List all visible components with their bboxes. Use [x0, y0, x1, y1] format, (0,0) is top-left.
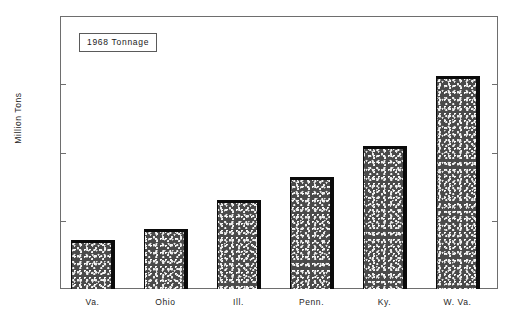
bars-layer: Va.OhioIll.Penn.Ky.W. Va. — [60, 16, 498, 289]
bar — [363, 146, 407, 289]
bar-group: Ky. — [363, 16, 407, 289]
bar — [217, 200, 261, 289]
x-axis-label: Va. — [51, 297, 135, 307]
bar — [144, 229, 188, 289]
x-axis-label: Ill. — [197, 297, 281, 307]
bar-chart: Million Tons 200150100500 1968 Tonnage V… — [0, 0, 514, 311]
bar-group: Ohio — [144, 16, 188, 289]
x-axis-label: W. Va. — [416, 297, 500, 307]
x-axis-label: Ky. — [343, 297, 427, 307]
bar-group: W. Va. — [436, 16, 480, 289]
x-axis-label: Ohio — [124, 297, 208, 307]
bar-group: Penn. — [290, 16, 334, 289]
bar — [71, 240, 115, 289]
y-axis-title: Million Tons — [13, 58, 23, 178]
x-axis-label: Penn. — [270, 297, 354, 307]
bar — [436, 76, 480, 289]
bar — [290, 177, 334, 289]
bar-group: Va. — [71, 16, 115, 289]
bar-group: Ill. — [217, 16, 261, 289]
